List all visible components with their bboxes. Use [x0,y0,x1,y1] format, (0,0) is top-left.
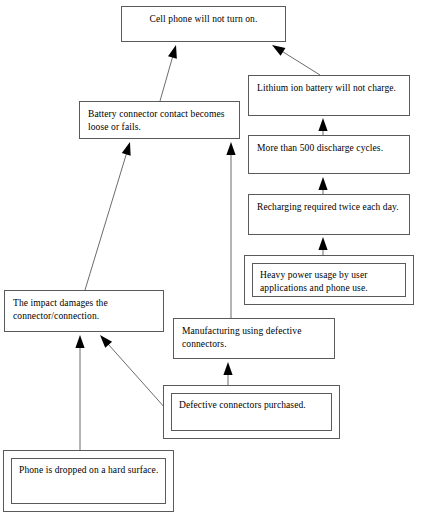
node-label-top-event: Cell phone will not turn on. [127,13,280,26]
node-label-lithium-ion-battery: Lithium ion battery will not charge. [257,82,404,95]
arrow-edge-defective-to-manufacturing [223,362,232,385]
arrow-edge-recharging-to-discharge [318,177,327,194]
diagram-canvas: Cell phone will not turn on.Battery conn… [0,0,421,518]
node-phone-dropped[interactable]: Phone is dropped on a hard surface. [3,450,174,512]
arrow-edge-impact-to-battery-contact [85,142,131,290]
node-label-heavy-power-usage: Heavy power usage by user applications a… [260,269,401,294]
node-label-battery-connector-contact: Battery connector contact becomes loose … [88,108,234,133]
arrow-edge-battery-contact-to-top [160,45,177,101]
node-discharge-cycles[interactable]: More than 500 discharge cycles. [248,135,410,174]
node-label-impact-damages-connector: The impact damages the connector/connect… [13,297,158,322]
arrow-edge-lithium-to-top [272,45,320,75]
arrow-edge-discharge-to-lithium [318,118,327,135]
node-heavy-power-usage[interactable]: Heavy power usage by user applications a… [244,255,414,305]
node-battery-connector-contact[interactable]: Battery connector contact becomes loose … [79,101,240,139]
node-defective-connectors-purchased[interactable]: Defective connectors purchased. [163,385,340,439]
node-label-manufacturing-defective: Manufacturing using defective connectors… [182,325,329,350]
node-label-recharging-twice-daily: Recharging required twice each day. [257,201,404,214]
node-impact-damages-connector[interactable]: The impact damages the connector/connect… [4,290,164,332]
node-manufacturing-defective[interactable]: Manufacturing using defective connectors… [173,318,335,359]
node-label-defective-connectors-purchased: Defective connectors purchased. [179,399,327,412]
node-label-phone-dropped: Phone is dropped on a hard surface. [19,464,161,477]
node-lithium-ion-battery[interactable]: Lithium ion battery will not charge. [248,75,410,116]
arrow-edge-defective-to-impact [100,335,166,409]
node-top-event[interactable]: Cell phone will not turn on. [121,6,286,42]
node-recharging-twice-daily[interactable]: Recharging required twice each day. [248,194,410,235]
node-label-discharge-cycles: More than 500 discharge cycles. [257,142,404,155]
arrow-edge-manufacturing-to-battery-contact [226,142,235,318]
arrow-edge-heavy-usage-to-recharging [318,237,327,255]
arrow-edge-dropped-to-impact [75,335,84,450]
